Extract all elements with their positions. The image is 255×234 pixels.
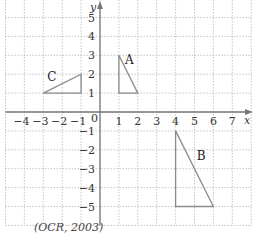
source-caption: (OCR, 2003): [34, 221, 103, 234]
y-tick-label: 2: [88, 68, 95, 81]
y-axis-arrow-icon: [97, 1, 103, 9]
y-tick-label: 1: [88, 87, 95, 100]
x-tick-label: −4: [13, 115, 29, 128]
x-tick-label: −2: [51, 115, 67, 128]
y-tick-label: −5: [79, 201, 95, 214]
coordinate-plane: xy0−4−3−2−1123456754321−1−2−3−4−5ABC: [0, 0, 255, 234]
shape-label-c: C: [47, 70, 56, 84]
x-axis-label: x: [244, 114, 251, 127]
x-tick-label: 6: [210, 115, 217, 128]
x-tick-label: 1: [115, 115, 122, 128]
shape-label-b: B: [197, 149, 206, 163]
x-tick-label: 7: [229, 115, 236, 128]
y-tick-label: 5: [88, 12, 95, 25]
y-tick-label: −2: [79, 144, 95, 157]
y-tick-label: −1: [79, 125, 95, 138]
x-tick-label: 5: [191, 115, 198, 128]
x-tick-label: 4: [172, 115, 179, 128]
shape-label-a: A: [124, 53, 134, 67]
y-tick-label: −3: [79, 163, 95, 176]
x-tick-label: 2: [134, 115, 141, 128]
x-tick-label: −3: [32, 115, 48, 128]
y-tick-label: −4: [79, 182, 95, 195]
y-tick-label: 4: [88, 30, 95, 43]
x-tick-label: 3: [153, 115, 160, 128]
y-tick-label: 3: [88, 49, 95, 62]
coordinate-grid-figure: xy0−4−3−2−1123456754321−1−2−3−4−5ABC (OC…: [0, 0, 255, 234]
origin-label: 0: [91, 112, 98, 125]
